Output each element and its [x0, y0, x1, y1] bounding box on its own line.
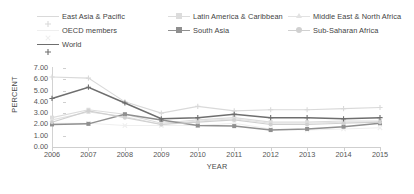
data-point-marker	[378, 120, 382, 124]
line-chart: East Asia & PacificLatin America & Carib…	[0, 0, 414, 194]
data-point-marker	[232, 118, 236, 122]
series-line	[52, 123, 380, 130]
data-point-marker	[86, 85, 91, 90]
data-point-marker	[342, 121, 346, 125]
data-point-marker	[49, 74, 54, 79]
data-point-marker	[377, 105, 382, 110]
data-point-marker	[86, 122, 90, 126]
data-point-marker	[196, 120, 200, 124]
series-world	[49, 85, 382, 122]
series-line	[52, 77, 380, 113]
data-point-marker	[305, 107, 310, 112]
data-point-marker	[232, 124, 236, 128]
data-point-marker	[159, 122, 163, 126]
data-point-marker	[305, 127, 309, 131]
data-point-marker	[50, 120, 54, 124]
data-point-marker	[195, 104, 200, 109]
data-point-marker	[305, 115, 310, 120]
data-point-marker	[305, 122, 309, 126]
series-plot	[0, 0, 414, 194]
data-point-marker	[269, 128, 273, 132]
series-east-asia-pacific	[49, 74, 382, 115]
data-point-marker	[49, 96, 54, 101]
data-point-marker	[86, 109, 90, 113]
data-point-marker	[159, 111, 164, 116]
data-point-marker	[123, 116, 127, 120]
data-point-marker	[268, 115, 273, 120]
data-point-marker	[268, 107, 273, 112]
data-point-marker	[341, 106, 346, 111]
data-point-marker	[269, 122, 273, 126]
